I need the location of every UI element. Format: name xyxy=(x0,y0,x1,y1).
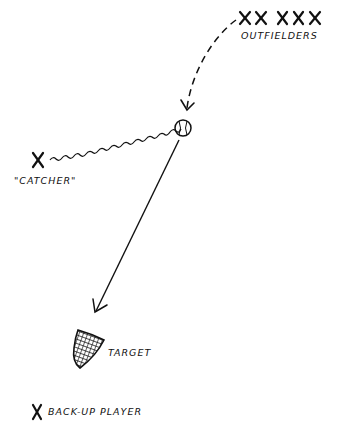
backup-x-marker xyxy=(33,405,41,419)
wavy-line-catcher xyxy=(50,129,181,160)
outfielder-x-2 xyxy=(256,12,266,24)
outfielder-markers xyxy=(240,12,320,24)
drill-diagram xyxy=(0,0,339,434)
outfielder-x-3 xyxy=(278,12,287,24)
throw-path-dashed xyxy=(187,20,236,108)
target-net-icon xyxy=(74,330,104,368)
throw-path-solid xyxy=(96,140,179,311)
catcher-label: "CATCHER" xyxy=(14,175,76,186)
arrowhead-solid xyxy=(93,299,107,312)
outfielder-x-5 xyxy=(310,12,320,24)
outfielders-label: OUTFIELDERS xyxy=(241,30,318,41)
outfielder-x-4 xyxy=(294,12,303,24)
catcher-x-marker xyxy=(33,153,43,167)
backup-label: BACK-UP PLAYER xyxy=(48,406,142,417)
baseball-icon xyxy=(175,120,191,136)
target-label: TARGET xyxy=(108,347,151,358)
outfielder-x-1 xyxy=(240,12,250,24)
